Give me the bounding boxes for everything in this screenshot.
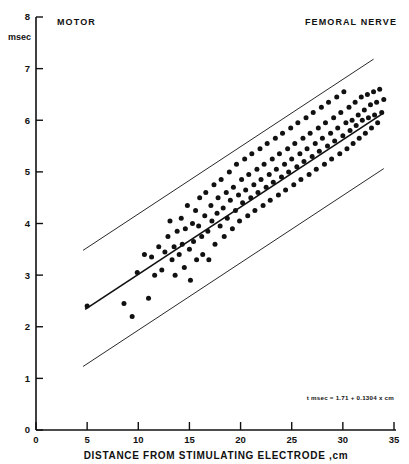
data-point (354, 123, 359, 128)
data-point (311, 110, 316, 115)
data-point (237, 218, 242, 223)
data-point (310, 154, 315, 159)
data-point (340, 133, 345, 138)
y-tick-label: 5 (25, 166, 31, 177)
data-point (85, 304, 90, 309)
data-point (249, 151, 254, 156)
data-point (227, 169, 232, 174)
data-point (261, 203, 266, 208)
data-point (304, 115, 309, 120)
data-point (334, 95, 339, 100)
data-point (337, 151, 342, 156)
data-point (328, 131, 333, 136)
data-point (187, 247, 192, 252)
data-point (288, 125, 293, 130)
x-tick-label: 35 (389, 434, 400, 445)
data-point (179, 216, 184, 221)
data-point (242, 156, 247, 161)
data-point (219, 177, 224, 182)
x-tick-label: 10 (133, 434, 144, 445)
data-point (360, 118, 365, 123)
x-tick-label: 5 (84, 434, 90, 445)
data-point (335, 125, 340, 130)
data-point (172, 244, 177, 249)
data-point (277, 151, 282, 156)
data-point (276, 193, 281, 198)
data-point (265, 141, 270, 146)
data-point (215, 211, 220, 216)
data-point (196, 224, 201, 229)
data-point (190, 221, 195, 226)
data-point (193, 208, 198, 213)
data-point (375, 120, 380, 125)
data-point (194, 257, 199, 262)
data-point (216, 195, 221, 200)
data-point (338, 110, 343, 115)
data-point (362, 107, 367, 112)
data-point (301, 159, 306, 164)
chart-canvas: 012345678 05101520253035 MOTOR FEMORAL N… (0, 0, 409, 464)
data-point (267, 172, 272, 177)
data-point (245, 213, 250, 218)
data-points (85, 87, 387, 319)
data-point (369, 125, 374, 130)
data-point (285, 146, 290, 151)
data-point (180, 242, 185, 247)
data-point (292, 141, 297, 146)
data-point (357, 136, 362, 141)
y-tick-label: 6 (25, 115, 30, 126)
x-tick-label: 0 (33, 434, 38, 445)
data-point (239, 177, 244, 182)
data-point (206, 257, 211, 262)
data-point (381, 97, 386, 102)
data-point (271, 180, 276, 185)
data-point (300, 136, 305, 141)
data-point (213, 242, 218, 247)
data-point (162, 249, 167, 254)
plot-label-motor: MOTOR (57, 17, 96, 27)
data-point (351, 141, 356, 146)
data-point (314, 167, 319, 172)
data-point (152, 273, 157, 278)
data-point (286, 169, 291, 174)
data-point (282, 162, 287, 167)
data-point (246, 172, 251, 177)
data-point (165, 234, 170, 239)
x-tick-label: 25 (286, 434, 297, 445)
data-point (159, 267, 164, 272)
data-point (379, 110, 384, 115)
data-point (254, 167, 259, 172)
data-point (248, 195, 253, 200)
data-point (295, 120, 300, 125)
data-point (274, 167, 279, 172)
data-point (228, 198, 233, 203)
data-point (233, 208, 238, 213)
data-point (199, 234, 204, 239)
data-point (167, 218, 172, 223)
data-point (197, 195, 202, 200)
data-point (346, 105, 351, 110)
data-point (353, 100, 358, 105)
data-point (135, 270, 140, 275)
data-point (341, 89, 346, 94)
data-point (259, 177, 264, 182)
data-point (149, 255, 154, 260)
data-point (200, 252, 205, 257)
data-point (205, 229, 210, 234)
data-point (121, 301, 126, 306)
data-point (308, 131, 313, 136)
y-tick-label: 4 (25, 218, 31, 229)
data-point (191, 239, 196, 244)
data-point (371, 89, 376, 94)
data-point (218, 224, 223, 229)
data-point (368, 102, 373, 107)
y-tick-label: 0 (25, 424, 30, 435)
plot-label-femoral-nerve: FEMORAL NERVE (305, 17, 397, 27)
data-point (252, 208, 257, 213)
fit-lines (83, 59, 384, 366)
x-axis-ticks: 05101520253035 (33, 422, 400, 445)
data-point (322, 162, 327, 167)
data-point (366, 115, 371, 120)
y-tick-label: 1 (25, 373, 31, 384)
x-tick-label: 30 (338, 434, 349, 445)
